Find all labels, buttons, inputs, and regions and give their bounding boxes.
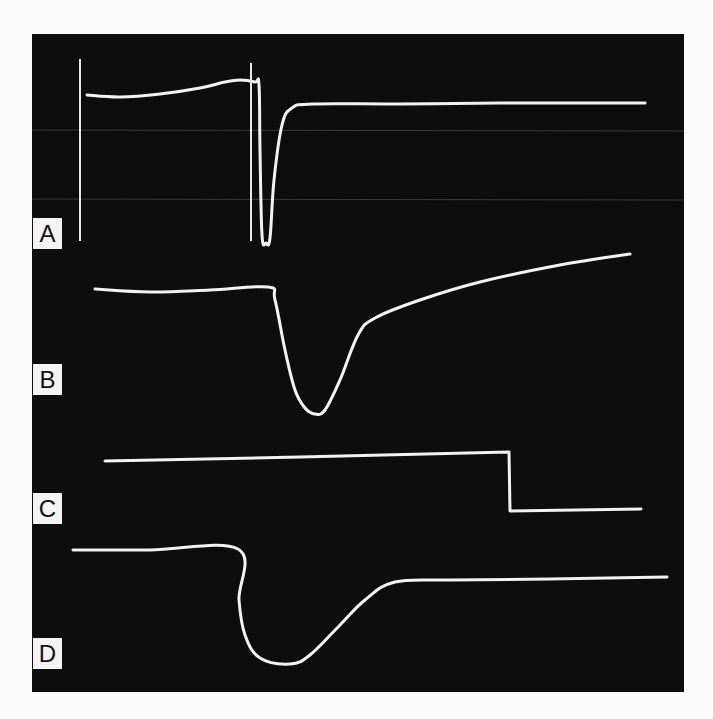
trace-a [87,79,645,245]
panel-label-b: B [33,364,62,395]
traces-plot [32,34,684,692]
grid-line [32,199,684,200]
trace-b [95,254,630,415]
panel-label-a: A [33,218,62,249]
trace-c [105,452,641,511]
oscilloscope-panel: A B C D [32,34,684,692]
panel-label-d: D [33,638,62,669]
trace-d [73,545,667,664]
panel-label-c: C [33,493,62,524]
grid-line [32,130,684,131]
